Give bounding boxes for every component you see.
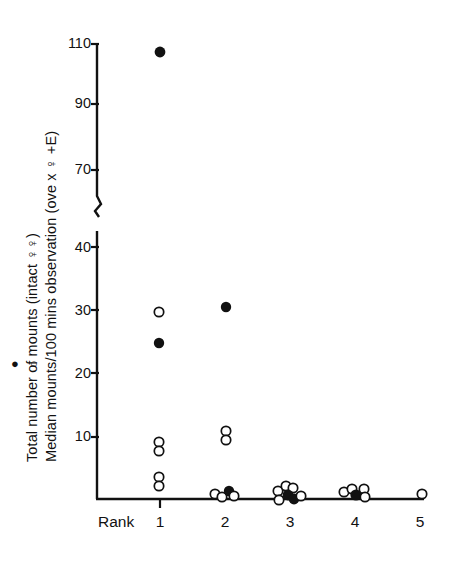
data-point-filled (154, 338, 164, 348)
data-point-open (154, 481, 163, 490)
data-point-open (221, 426, 230, 435)
data-point-filled (155, 47, 166, 58)
data-point-open (274, 495, 283, 504)
data-point-open (360, 492, 369, 501)
data-point-open (154, 307, 163, 316)
data-point-open (154, 472, 163, 481)
series-rank-1 (154, 307, 164, 490)
series-rank-5 (417, 489, 426, 498)
series-rank-2 (210, 302, 238, 502)
chart-figure: ● Total number of mounts (intact ♀♀) ○ M… (0, 0, 453, 568)
data-point-open (154, 437, 163, 446)
data-point-open (296, 491, 305, 500)
x-axis (96, 499, 424, 508)
plot-canvas (0, 0, 453, 568)
data-point-open (154, 446, 163, 455)
series-rank-3 (273, 481, 305, 504)
data-point-filled (221, 302, 231, 312)
series-filled-upper (155, 47, 166, 58)
data-point-open (229, 491, 238, 500)
data-point-open (221, 435, 230, 444)
y-axis-upper (91, 44, 101, 217)
y-axis-lower (91, 231, 99, 499)
data-point-open (417, 489, 426, 498)
